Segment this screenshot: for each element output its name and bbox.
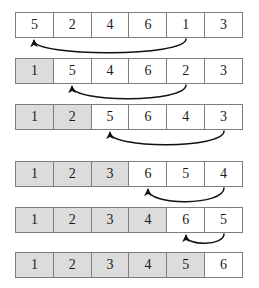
array-row: 123456 bbox=[15, 252, 243, 278]
array-cell-sorted: 4 bbox=[129, 253, 167, 277]
array-cell: 4 bbox=[167, 105, 205, 129]
array-cell: 1 bbox=[167, 13, 205, 37]
array-cell: 4 bbox=[205, 162, 242, 186]
array-row: 154623 bbox=[15, 58, 243, 84]
array-cell: 5 bbox=[54, 59, 92, 83]
swap-arrow bbox=[34, 39, 186, 53]
array-cell: 5 bbox=[205, 208, 242, 232]
array-cell-sorted: 2 bbox=[54, 253, 92, 277]
array-cell-sorted: 2 bbox=[54, 105, 92, 129]
array-cell-sorted: 3 bbox=[92, 208, 130, 232]
array-cell: 4 bbox=[92, 59, 130, 83]
swap-arrow bbox=[110, 131, 224, 145]
selection-sort-diagram: 524613154623125643123654123465123456 bbox=[0, 0, 259, 288]
array-cell-sorted: 1 bbox=[16, 208, 54, 232]
array-cell-sorted: 3 bbox=[92, 162, 130, 186]
array-cell: 5 bbox=[167, 162, 205, 186]
array-cell: 5 bbox=[16, 13, 54, 37]
array-row: 125643 bbox=[15, 104, 243, 130]
array-row: 123654 bbox=[15, 161, 243, 187]
array-row: 524613 bbox=[15, 12, 243, 38]
array-cell: 3 bbox=[205, 105, 242, 129]
array-cell: 2 bbox=[54, 13, 92, 37]
array-cell-sorted: 1 bbox=[16, 253, 54, 277]
array-cell: 6 bbox=[129, 59, 167, 83]
array-cell: 3 bbox=[205, 13, 242, 37]
array-cell-sorted: 5 bbox=[167, 253, 205, 277]
swap-arrow bbox=[186, 234, 224, 243]
array-cell: 4 bbox=[92, 13, 130, 37]
array-cell: 2 bbox=[167, 59, 205, 83]
array-cell: 6 bbox=[129, 13, 167, 37]
array-cell-sorted: 3 bbox=[92, 253, 130, 277]
array-row: 123465 bbox=[15, 207, 243, 233]
array-cell: 6 bbox=[205, 253, 242, 277]
array-cell: 6 bbox=[129, 162, 167, 186]
array-cell-sorted: 1 bbox=[16, 162, 54, 186]
array-cell-sorted: 1 bbox=[16, 105, 54, 129]
array-cell: 6 bbox=[129, 105, 167, 129]
swap-arrow bbox=[72, 85, 186, 99]
array-cell-sorted: 1 bbox=[16, 59, 54, 83]
array-cell: 5 bbox=[92, 105, 130, 129]
array-cell-sorted: 2 bbox=[54, 208, 92, 232]
array-cell: 6 bbox=[167, 208, 205, 232]
array-cell-sorted: 4 bbox=[129, 208, 167, 232]
swap-arrow-layer bbox=[0, 0, 259, 288]
array-cell: 3 bbox=[205, 59, 242, 83]
swap-arrow bbox=[148, 188, 224, 202]
array-cell-sorted: 2 bbox=[54, 162, 92, 186]
